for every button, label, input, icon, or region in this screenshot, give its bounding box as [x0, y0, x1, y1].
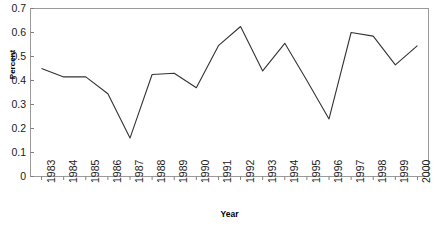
x-tick-label: 1992	[245, 159, 256, 182]
x-tick-label: 1995	[311, 159, 322, 182]
line-chart: Percent 00.10.20.30.40.50.60.7 198319841…	[0, 0, 439, 231]
plot-area	[0, 0, 439, 231]
x-tick-label: 1989	[178, 159, 189, 182]
x-tick-label: 1998	[377, 159, 388, 182]
x-tick-label: 1991	[222, 159, 233, 182]
x-tick-label: 1988	[156, 159, 167, 182]
y-tick-label: 0.2	[0, 123, 26, 134]
y-tick-label: 0.6	[0, 27, 26, 38]
x-tick-label: 1996	[333, 159, 344, 182]
y-tick-label: 0.7	[0, 3, 26, 14]
x-tick-label: 1985	[90, 159, 101, 182]
x-tick-label: 1983	[46, 159, 57, 182]
y-tick-label: 0.3	[0, 99, 26, 110]
x-tick-label: 1994	[289, 159, 300, 182]
y-tick-label: 0.4	[0, 75, 26, 86]
x-tick-label: 1997	[355, 159, 366, 182]
y-axis-title: Percent	[8, 35, 17, 95]
y-tick-label: 0	[0, 171, 26, 182]
x-axis-title: Year	[190, 209, 270, 219]
x-tick-label: 1999	[399, 159, 410, 182]
x-tick-label: 1987	[134, 159, 145, 182]
plot-border	[31, 9, 429, 177]
y-tick-label: 0.5	[0, 51, 26, 62]
x-tick-label: 1984	[68, 159, 79, 182]
y-tick-label: 0.1	[0, 147, 26, 158]
x-tick-label: 1986	[112, 159, 123, 182]
x-tick-label: 1990	[200, 159, 211, 182]
x-tick-label: 2000	[421, 159, 432, 182]
x-tick-label: 1993	[267, 159, 278, 182]
